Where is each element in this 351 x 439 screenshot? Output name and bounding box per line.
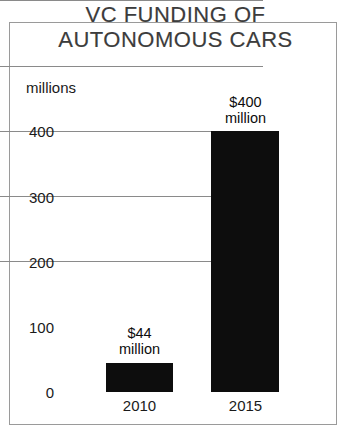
bar-label-2010-amount: $44 xyxy=(97,325,182,341)
y-axis-tick-400: 400 xyxy=(8,123,54,140)
bar-label-2010: $44 million xyxy=(97,325,182,357)
bar-label-2015: $400 million xyxy=(203,94,288,126)
bar-2010[interactable] xyxy=(106,363,173,392)
y-axis-tick-0: 0 xyxy=(8,384,54,401)
y-axis-tick-300: 300 xyxy=(8,189,54,206)
y-axis-tick-100: 100 xyxy=(8,319,54,336)
bar-label-2010-unit: million xyxy=(97,341,182,357)
chart-title: VC FUNDING OF AUTONOMOUS CARS xyxy=(0,2,351,52)
bar-label-2015-amount: $400 xyxy=(203,94,288,110)
x-axis-category-2015: 2015 xyxy=(203,397,288,414)
gridline-300 xyxy=(0,66,263,67)
chart-figure: VC FUNDING OF AUTONOMOUS CARS millions 4… xyxy=(0,0,351,439)
x-axis-category-2010: 2010 xyxy=(97,397,182,414)
bar-2015[interactable] xyxy=(211,131,279,392)
gridline-400 xyxy=(0,0,263,1)
chart-title-line-1: VC FUNDING OF xyxy=(0,2,351,27)
y-axis-unit-label: millions xyxy=(26,79,76,96)
chart-title-line-2: AUTONOMOUS CARS xyxy=(0,27,351,52)
y-axis-tick-200: 200 xyxy=(8,254,54,271)
bar-label-2015-unit: million xyxy=(203,110,288,126)
